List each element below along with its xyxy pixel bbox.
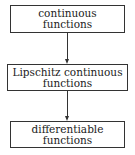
- node-lipschitz-continuous-functions: Lipschitz continuous functions: [7, 64, 128, 91]
- node-label-line-2: functions: [43, 135, 92, 146]
- node-label-line-2: functions: [43, 78, 92, 89]
- node-label-line-1: differentiable: [32, 124, 104, 135]
- node-continuous-functions: continuous functions: [10, 5, 125, 33]
- arrow-1-shaft: [67, 33, 68, 59]
- node-differentiable-functions: differentiable functions: [10, 121, 125, 148]
- node-label-line-1: Lipschitz continuous: [12, 67, 122, 78]
- arrow-2-shaft: [67, 91, 68, 116]
- node-label-line-2: functions: [43, 19, 92, 30]
